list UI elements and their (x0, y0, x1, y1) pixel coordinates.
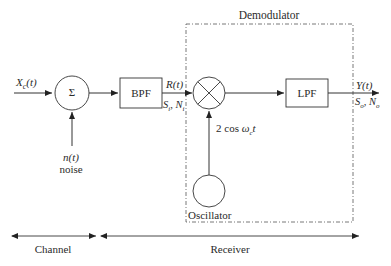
no-main: N (369, 96, 376, 107)
si-sub: i (168, 105, 170, 113)
bpf-output-params: Si, Ni (163, 100, 184, 113)
oscillator-signal-label: 2 cos ωct (216, 123, 256, 137)
channel-label: Channel (35, 244, 72, 255)
receiver-label: Receiver (210, 244, 249, 255)
osc-signal-pre: 2 cos (216, 122, 242, 134)
bpf-output-signal: R(t) (166, 79, 183, 90)
bpf-label: BPF (131, 88, 151, 99)
lpf-output-signal: Y(t) (356, 80, 373, 91)
no-sub: o (376, 102, 380, 110)
lpf-output-params: So, No (355, 97, 380, 110)
diagram-canvas (0, 0, 391, 266)
input-signal-main: X (16, 76, 23, 88)
noise-signal-label: n(t) (63, 152, 79, 163)
osc-signal-post: t (253, 122, 256, 134)
adder-symbol: Σ (69, 87, 75, 98)
oscillator-label: Oscillator (188, 210, 231, 221)
demodulator-boundary (186, 24, 353, 222)
oscillator-circle (193, 175, 225, 207)
input-signal-label: Xc(t) (16, 77, 37, 91)
noise-label: noise (59, 164, 82, 175)
input-signal-arg: (t) (26, 76, 36, 88)
so-sub: o (360, 102, 364, 110)
demodulator-title: Demodulator (239, 10, 300, 22)
lpf-label: LPF (298, 88, 317, 99)
ni-sub: i (182, 105, 184, 113)
